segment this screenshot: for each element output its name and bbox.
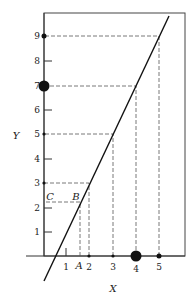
x-dot-5 [157,254,162,259]
y-dot-5 [42,132,45,135]
x-tick-1: 1 [63,262,69,272]
y-tick-6: 6 [34,105,40,115]
plot-frame [44,13,185,256]
function-line [44,16,169,281]
diagram: 9 8 7 6 5 4 3 2 1 1 2 3 4 5 A B C Y X [0,0,195,296]
y-tick-7: 7 [34,81,40,91]
x-dot-2 [87,254,90,257]
y-tick-4: 4 [34,154,40,164]
y-axis-label: Y [13,130,21,141]
x-tick-2: 2 [86,262,92,272]
y-dot-3 [42,181,45,184]
x-axis-label: X [108,283,117,294]
point-label-a: A [74,260,82,271]
y-dot-9 [42,34,47,39]
x-tick-3: 3 [110,262,116,272]
x-dot-3 [111,254,114,257]
y-tick-2: 2 [34,203,40,213]
mapping-dashes [44,36,159,256]
y-tick-labels: 9 8 7 6 5 4 3 2 1 [34,31,40,237]
y-tick-1: 1 [34,227,40,237]
x-dot-4-emphasized [131,251,142,262]
y-tick-9: 9 [34,31,40,41]
y-tick-5: 5 [34,129,40,139]
y-tick-8: 8 [34,56,40,66]
y-dot-7-emphasized [39,81,50,92]
x-tick-5: 5 [156,262,162,272]
point-label-c: C [46,191,54,202]
x-tick-4: 4 [133,264,139,274]
y-tick-3: 3 [34,178,40,188]
point-label-b: B [71,191,79,202]
